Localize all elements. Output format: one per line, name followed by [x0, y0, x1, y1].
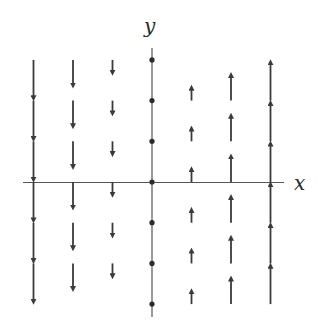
vector-field-diagram: x y — [0, 0, 318, 322]
zero-vector-dot — [149, 261, 154, 266]
zero-vector-dot — [149, 139, 154, 144]
x-axis-label: x — [294, 171, 305, 195]
zero-vector-dot — [149, 98, 154, 103]
zero-vector-dot — [149, 179, 154, 184]
y-axis-label: y — [143, 14, 156, 38]
zero-vector-dot — [149, 302, 154, 307]
zero-vector-dot — [149, 220, 154, 225]
zero-vector-dot — [149, 57, 154, 62]
